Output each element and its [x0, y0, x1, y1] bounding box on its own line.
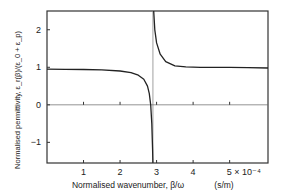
y-tick-label: 1	[36, 62, 41, 72]
tick-labels: 12345 × 10⁻⁴210−1	[31, 25, 261, 177]
plot-frame	[47, 11, 268, 163]
x-tick-label: 5 × 10⁻⁴	[227, 167, 261, 177]
series-left-branch	[47, 69, 153, 163]
permittivity-chart: 12345 × 10⁻⁴210−1 Normalised wavenumber,…	[0, 0, 284, 194]
x-tick-label: 3	[154, 167, 159, 177]
x-axis-unit: (s/m)	[214, 180, 234, 190]
x-tick-label: 1	[81, 167, 86, 177]
series-right-branch	[154, 11, 268, 68]
plot-border	[47, 11, 268, 163]
axis-ticks	[47, 30, 230, 163]
y-tick-label: 0	[36, 100, 41, 110]
y-tick-label: −1	[31, 137, 41, 147]
x-axis-title: Normalised wavenumber, β/ω	[72, 180, 185, 190]
y-tick-label: 2	[36, 25, 41, 35]
x-tick-label: 4	[191, 167, 196, 177]
curves	[47, 11, 268, 163]
y-axis-title: Normalised permittivity, ε_r(β)/(ε_0 + ε…	[13, 31, 22, 169]
x-tick-label: 2	[118, 167, 123, 177]
